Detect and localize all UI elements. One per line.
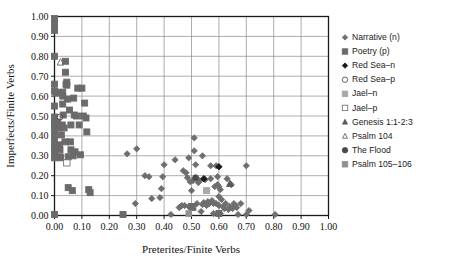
data-point xyxy=(52,212,58,218)
x-tick-label: 0.80 xyxy=(265,221,283,232)
x-tick-label: 0.50 xyxy=(183,221,201,232)
legend-label: Narrative (n) xyxy=(352,32,400,42)
x-tick-label: 0.20 xyxy=(101,221,119,232)
x-tick-label: 0.40 xyxy=(155,221,173,232)
x-tick-label: 1.00 xyxy=(320,221,338,232)
legend-label: Genesis 1:1-2:3 xyxy=(352,117,413,127)
data-point xyxy=(193,175,199,181)
y-tick-label: 0.90 xyxy=(31,31,49,42)
legend-label: Psalm 104 xyxy=(352,131,393,141)
y-tick-label: 0.50 xyxy=(31,111,49,122)
data-point xyxy=(61,125,67,131)
x-tick-label: 0.00 xyxy=(46,221,64,232)
data-point xyxy=(216,211,222,217)
y-tick-label: 0.60 xyxy=(31,91,49,102)
data-point xyxy=(83,115,89,121)
data-point xyxy=(62,69,68,75)
data-point xyxy=(71,95,77,101)
data-point xyxy=(65,96,71,102)
series-psalm-105-106 xyxy=(186,211,192,217)
data-point xyxy=(73,113,79,119)
series-the-flood xyxy=(193,175,199,181)
legend-label: Poetry (p) xyxy=(352,46,390,56)
data-point xyxy=(52,21,58,27)
data-point xyxy=(57,147,63,153)
data-point xyxy=(204,188,210,194)
data-point xyxy=(60,89,66,95)
x-tick-label: 0.10 xyxy=(73,221,91,232)
data-point xyxy=(82,100,88,106)
legend-marker xyxy=(342,162,347,167)
data-point xyxy=(78,152,84,158)
x-axis-tick-labels: 0.000.100.200.300.400.500.600.700.800.90… xyxy=(46,221,338,232)
y-tick-label: 0.20 xyxy=(31,170,49,181)
data-point xyxy=(64,82,70,88)
data-point xyxy=(52,27,58,33)
data-point xyxy=(58,155,64,161)
y-tick-label: 0.80 xyxy=(31,51,49,62)
legend-marker xyxy=(342,49,347,54)
y-tick-label: 0.10 xyxy=(31,190,49,201)
data-point xyxy=(52,15,58,21)
data-point xyxy=(120,212,126,218)
data-point xyxy=(67,139,73,145)
data-point xyxy=(58,132,64,138)
legend-label: Psalm 105–106 xyxy=(352,159,412,169)
legend-label: Red Sea–n xyxy=(352,60,395,70)
legend-label: Red Sea–p xyxy=(352,74,395,84)
x-tick-label: 0.90 xyxy=(292,221,310,232)
legend-marker xyxy=(342,91,347,96)
data-point xyxy=(79,85,85,91)
data-point xyxy=(52,103,58,109)
data-point xyxy=(68,122,74,128)
data-point xyxy=(84,129,90,135)
y-tick-label: 0.70 xyxy=(31,71,49,82)
x-tick-label: 0.60 xyxy=(210,221,228,232)
y-tick-label: 0.30 xyxy=(31,150,49,161)
y-tick-label: 0.00 xyxy=(31,210,49,221)
data-point xyxy=(52,81,58,87)
data-point xyxy=(76,122,82,128)
legend-label: The Flood xyxy=(352,145,391,155)
x-tick-label: 0.30 xyxy=(128,221,146,232)
legend-label: Jael–n xyxy=(352,88,378,98)
legend-label: Jael–p xyxy=(352,103,378,113)
data-point xyxy=(186,211,192,217)
series-jael-n xyxy=(204,188,210,194)
x-axis-title: Preterites/Finite Verbs xyxy=(142,243,240,255)
data-point xyxy=(87,190,93,196)
legend-marker xyxy=(342,148,347,153)
y-tick-label: 0.40 xyxy=(31,130,49,141)
data-point xyxy=(52,53,58,59)
data-point xyxy=(190,205,196,211)
data-point xyxy=(69,188,75,194)
scatter-plot-figure: 0.000.100.200.300.400.500.600.700.800.90… xyxy=(0,0,455,262)
y-tick-label: 1.00 xyxy=(31,11,49,22)
y-axis-title: Imperfects/Finite Verbs xyxy=(4,64,16,167)
x-tick-label: 0.70 xyxy=(238,221,256,232)
data-point xyxy=(52,133,58,139)
